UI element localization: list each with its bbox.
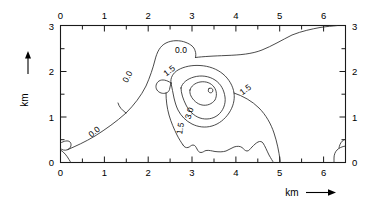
x-ticklabel-top-1: 1 bbox=[102, 10, 107, 21]
y-axis-arrow-head bbox=[25, 51, 31, 59]
contour-path-level-4p5 bbox=[190, 82, 217, 106]
contour-label-2: 0.0 bbox=[175, 45, 187, 55]
x-ticklabel-top-2: 2 bbox=[146, 10, 151, 21]
x-axis-ticks-bottom bbox=[61, 157, 346, 163]
contour-path-peak-marker bbox=[208, 88, 213, 93]
contour-label-0: 0.0 bbox=[120, 69, 135, 84]
contour-lines bbox=[61, 26, 346, 163]
y-axis-ticklabels-left: 0 1 2 3 bbox=[49, 21, 54, 169]
y-ticklabel-left-2: 2 bbox=[49, 66, 54, 77]
contour-path-corner-bottomleft bbox=[61, 150, 71, 163]
y-ticklabel-right-1: 1 bbox=[352, 112, 357, 123]
x-ticklabel-bottom-3: 3 bbox=[189, 167, 194, 178]
x-ticklabel-top-4: 4 bbox=[233, 10, 238, 21]
y-ticklabel-right-2: 2 bbox=[352, 66, 357, 77]
contour-plot-svg: 0 1 2 3 4 5 6 0 1 2 3 4 5 6 0 1 2 3 0 1 … bbox=[0, 0, 376, 206]
x-ticklabel-bottom-6: 6 bbox=[321, 167, 326, 178]
y-ticklabel-left-1: 1 bbox=[49, 112, 54, 123]
y-ticklabel-right-0: 0 bbox=[352, 157, 357, 168]
contour-label-6: 3.0 bbox=[183, 106, 196, 121]
contour-path-level-1p5-right-arc bbox=[234, 93, 280, 163]
contour-path-level-0-bump bbox=[118, 103, 126, 113]
x-axis-title: km bbox=[285, 187, 298, 198]
x-ticklabel-bottom-4: 4 bbox=[233, 167, 238, 178]
contour-label-1: 0.0 bbox=[86, 124, 102, 139]
contour-path-bottom-jagged bbox=[183, 141, 274, 162]
contour-plot-figure: 0 1 2 3 4 5 6 0 1 2 3 4 5 6 0 1 2 3 0 1 … bbox=[0, 0, 376, 206]
y-axis-ticks-right bbox=[340, 26, 346, 163]
x-axis-ticks-top bbox=[61, 26, 346, 32]
x-ticklabel-top-0: 0 bbox=[58, 10, 63, 21]
y-ticklabel-right-3: 3 bbox=[352, 21, 357, 32]
y-axis-title: km bbox=[19, 93, 30, 106]
x-ticklabel-top-6: 6 bbox=[321, 10, 326, 21]
contour-path-level-0-topright bbox=[196, 26, 338, 58]
contour-label-5: 1.5 bbox=[174, 122, 186, 136]
contour-label-3: 1.5 bbox=[161, 63, 177, 78]
x-axis-title-group: km bbox=[285, 187, 336, 198]
x-axis-ticklabels-top: 0 1 2 3 4 5 6 bbox=[58, 10, 326, 21]
y-ticklabel-left-3: 3 bbox=[49, 21, 54, 32]
plot-frame bbox=[61, 26, 346, 163]
contour-path-bottomright-edge bbox=[334, 146, 346, 163]
x-ticklabel-bottom-0: 0 bbox=[58, 167, 63, 178]
x-ticklabel-bottom-2: 2 bbox=[146, 167, 151, 178]
x-axis-arrow-head bbox=[328, 189, 336, 195]
x-ticklabel-top-5: 5 bbox=[277, 10, 282, 21]
x-ticklabel-bottom-1: 1 bbox=[102, 167, 107, 178]
contour-path-level-1p5-west bbox=[156, 80, 171, 93]
x-ticklabel-bottom-5: 5 bbox=[277, 167, 282, 178]
y-ticklabel-left-0: 0 bbox=[49, 157, 54, 168]
x-axis-ticklabels-bottom: 0 1 2 3 4 5 6 bbox=[58, 167, 326, 178]
x-ticklabel-top-3: 3 bbox=[189, 10, 194, 21]
y-axis-ticklabels-right: 0 1 2 3 bbox=[352, 21, 357, 169]
y-axis-title-group: km bbox=[19, 51, 31, 107]
